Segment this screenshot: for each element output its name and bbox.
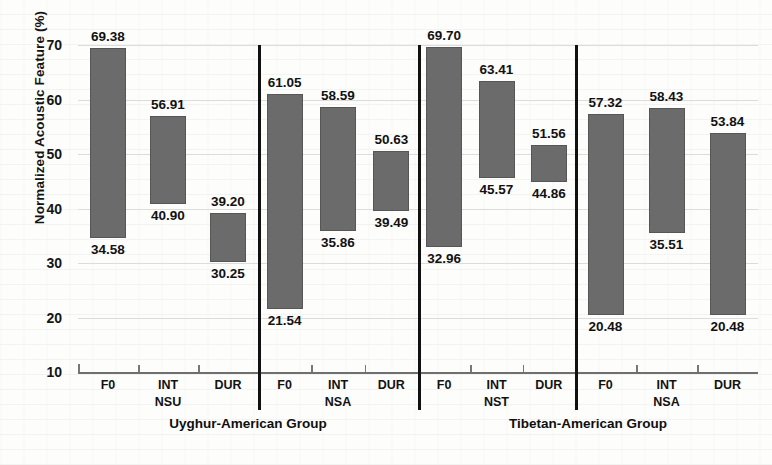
group-divider — [258, 45, 261, 410]
x-tick — [365, 365, 367, 372]
group-divider — [575, 45, 578, 410]
x-subgroup-label: NSA — [617, 395, 717, 409]
bar-low-value: 20.48 — [688, 319, 768, 334]
y-tick-label: 60 — [28, 92, 62, 108]
group-title: Tibetan-American Group — [458, 416, 718, 431]
bar-low-value: 32.96 — [404, 251, 484, 266]
bar-low-value: 35.86 — [298, 235, 378, 250]
y-axis-ticks: 70605040302010 — [22, 0, 62, 465]
x-tick — [697, 365, 699, 372]
y-tick-label: 40 — [28, 201, 62, 217]
y-tick-label: 20 — [28, 310, 62, 326]
x-subgroup-label: NST — [447, 395, 547, 409]
x-subgroup-label: NSA — [288, 395, 388, 409]
bar-high-value: 39.20 — [188, 194, 268, 209]
bar-low-value: 35.51 — [627, 237, 707, 252]
group-title: Uyghur-American Group — [118, 416, 378, 431]
x-category-label: DUR — [688, 378, 768, 392]
range-bar — [710, 133, 746, 315]
bar-high-value: 53.84 — [688, 114, 768, 129]
x-tick — [311, 365, 313, 372]
x-tick — [198, 365, 200, 372]
x-tick — [78, 365, 80, 372]
range-bar — [90, 48, 126, 238]
bar-high-value: 69.38 — [68, 29, 148, 44]
y-tick-label: 10 — [28, 364, 62, 380]
range-bar — [531, 145, 567, 182]
bar-low-value: 34.58 — [68, 242, 148, 257]
range-bar — [588, 114, 624, 315]
bar-low-value: 30.25 — [188, 266, 268, 281]
y-tick-label: 70 — [28, 37, 62, 53]
bar-high-value: 69.70 — [404, 28, 484, 43]
bar-high-value: 58.59 — [298, 88, 378, 103]
bar-high-value: 56.91 — [128, 97, 208, 112]
bar-high-value: 63.41 — [457, 62, 537, 77]
range-bar — [320, 107, 356, 231]
range-bar — [150, 116, 186, 203]
range-bar — [373, 151, 409, 212]
group-divider — [418, 45, 421, 410]
x-tick — [470, 365, 472, 372]
x-tick — [523, 365, 525, 372]
acoustic-feature-range-chart: Normalized Acoustic Feature (%) 70605040… — [0, 0, 772, 465]
x-tick — [138, 365, 140, 372]
range-bar — [210, 213, 246, 262]
range-bar — [267, 94, 303, 309]
bar-low-value: 21.54 — [245, 313, 325, 328]
y-tick-label: 50 — [28, 146, 62, 162]
range-bar — [649, 108, 685, 233]
x-subgroup-label: NSU — [118, 395, 218, 409]
x-tick — [636, 365, 638, 372]
bar-low-value: 40.90 — [128, 208, 208, 223]
y-tick-label: 30 — [28, 255, 62, 271]
bar-high-value: 58.43 — [627, 89, 707, 104]
